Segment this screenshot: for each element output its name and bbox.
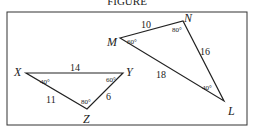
figure-title: FIGURE <box>107 0 147 7</box>
vertex-l-label: L <box>227 104 235 118</box>
vertex-n-label: N <box>183 11 193 25</box>
vertex-x-label: X <box>13 65 22 79</box>
angle-l: 40° <box>202 84 212 92</box>
vertex-z-label: Z <box>83 112 90 126</box>
side-yz-length: 6 <box>106 91 111 102</box>
angle-m: 60° <box>127 38 137 46</box>
angle-n: 80° <box>172 26 182 34</box>
side-mn-length: 10 <box>141 19 151 30</box>
similar-triangles-diagram: FIGURE X Y Z 40° 60° 80° 14 11 6 M N L 6… <box>0 0 254 134</box>
angle-z: 80° <box>81 98 91 106</box>
angle-y: 60° <box>106 76 116 84</box>
vertex-m-label: M <box>106 35 118 49</box>
angle-x: 40° <box>40 78 50 86</box>
side-ml-length: 18 <box>156 69 166 80</box>
side-nl-length: 16 <box>200 46 210 57</box>
side-xy-length: 14 <box>70 62 80 73</box>
vertex-y-label: Y <box>126 65 134 79</box>
side-xz-length: 11 <box>46 94 56 105</box>
